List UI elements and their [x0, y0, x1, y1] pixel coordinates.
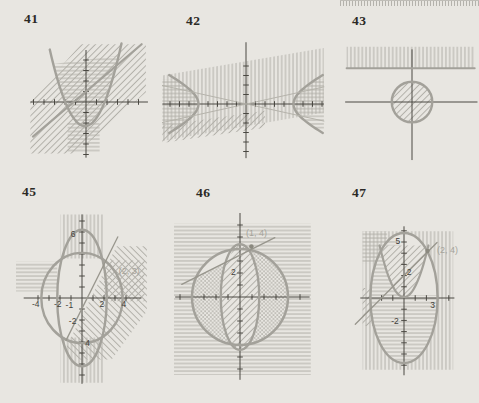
point-label: (2, 4) [437, 245, 458, 255]
textbook-figure-page: 41 42 43 45 -4-2-1246-24(2, 3) 46 2(1, 4… [0, 0, 479, 403]
graph-panel-46: 46 2(1, 4) [168, 183, 326, 399]
tick-label: -2 [54, 299, 62, 309]
graph-panel-45: 45 -4-2-1246-24(2, 3) [5, 183, 165, 399]
graph-42-canvas [162, 8, 326, 178]
tick-label: 6 [71, 229, 76, 239]
graph-panel-47: 47 523-2(2, 4) [330, 183, 479, 399]
tick-label: 3 [430, 300, 435, 310]
graph-panel-43: 43 [330, 8, 479, 178]
tick-label: 4 [121, 299, 126, 309]
tick-label: -2 [69, 316, 77, 326]
problem-number-46: 46 [196, 185, 211, 201]
tick-label: 5 [395, 236, 400, 246]
intersection-point [425, 249, 430, 254]
page-edge-artifact [340, 0, 479, 6]
hatch-region-h [68, 123, 100, 153]
tick-label: 4 [85, 338, 90, 348]
tick-label: 2 [407, 267, 412, 277]
graph-46-canvas: 2(1, 4) [168, 183, 326, 399]
point-label: (1, 4) [246, 228, 267, 238]
graph-panel-41: 41 [18, 8, 163, 178]
graph-panel-42: 42 [162, 8, 326, 178]
hatch-region-h [16, 262, 57, 292]
graph-41-canvas [18, 8, 163, 178]
problem-number-43: 43 [352, 13, 367, 29]
problem-number-42: 42 [186, 13, 201, 29]
graph-43-canvas [330, 8, 479, 178]
tick-label: -1 [66, 300, 74, 310]
graph-45-canvas: -4-2-1246-24(2, 3) [5, 183, 165, 399]
graph-47-canvas: 523-2(2, 4) [330, 183, 479, 399]
tick-label: 2 [99, 299, 104, 309]
tick-label: -2 [391, 316, 399, 326]
problem-number-47: 47 [352, 185, 367, 201]
tick-label: -4 [32, 299, 40, 309]
point-label: (2, 3) [119, 266, 140, 276]
problem-number-45: 45 [22, 184, 37, 200]
tick-label: 2 [231, 267, 236, 277]
hatch-region-v [347, 47, 475, 69]
intersection-point [249, 244, 254, 249]
problem-number-41: 41 [24, 11, 39, 27]
